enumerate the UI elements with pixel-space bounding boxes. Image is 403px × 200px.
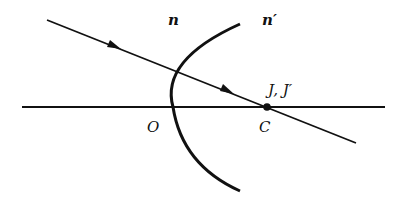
arrow-icon <box>220 84 234 94</box>
center-point <box>263 103 271 111</box>
label-vertex-o: O <box>147 120 159 135</box>
label-points-j: J, J′ <box>268 83 292 98</box>
label-n-prime: n′ <box>262 13 277 28</box>
label-center-c: C <box>259 120 270 135</box>
label-n: n <box>168 13 179 28</box>
light-ray <box>47 20 356 143</box>
refraction-diagram <box>0 0 403 200</box>
arrow-icon <box>107 40 121 49</box>
